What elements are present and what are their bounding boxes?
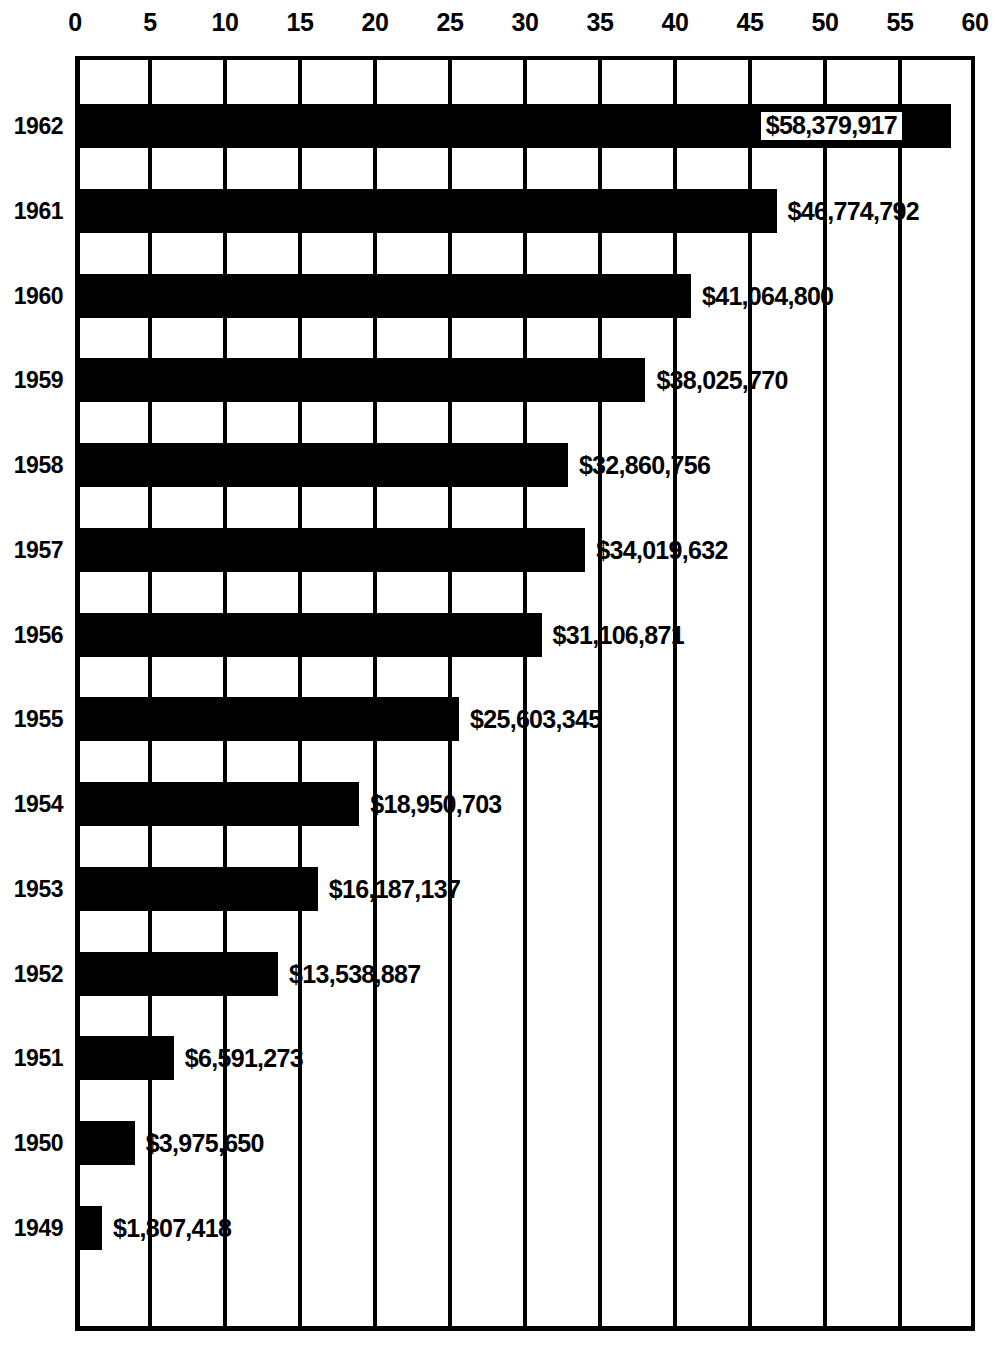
value-label-1962: $58,379,917 — [761, 112, 902, 140]
value-label-1957: $34,019,632 — [596, 535, 727, 564]
value-label-1958: $32,860,756 — [579, 451, 710, 480]
value-label-1960: $41,064,800 — [702, 281, 833, 310]
value-label-1959: $38,025,770 — [656, 366, 787, 395]
value-label-1955: $25,603,345 — [470, 705, 601, 734]
value-label-1953: $16,187,137 — [329, 874, 460, 903]
value-label-1949: $1,807,418 — [113, 1214, 231, 1243]
bar-value-labels: $58,379,917$46,774,792$41,064,800$38,025… — [0, 0, 994, 1360]
value-label-1956: $31,106,871 — [553, 620, 684, 649]
chart-page: 051015202530354045505560 196219611960195… — [0, 0, 994, 1360]
value-label-1952: $13,538,887 — [289, 959, 420, 988]
value-label-1954: $18,950,703 — [370, 790, 501, 819]
value-label-1950: $3,975,650 — [146, 1129, 264, 1158]
value-label-1951: $6,591,273 — [185, 1044, 303, 1073]
value-label-1961: $46,774,792 — [788, 196, 919, 225]
